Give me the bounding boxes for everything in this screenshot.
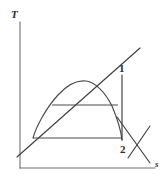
- y-axis-label: T: [11, 9, 18, 20]
- lower-right-ascending-line: [128, 126, 150, 158]
- state-point-2-label: 2: [120, 144, 126, 155]
- state-point-1-label: 1: [119, 63, 125, 74]
- ts-diagram-canvas: [0, 0, 167, 179]
- ts-diagram-figure: T s 1 2: [0, 0, 167, 179]
- x-axis-label: s: [155, 160, 159, 169]
